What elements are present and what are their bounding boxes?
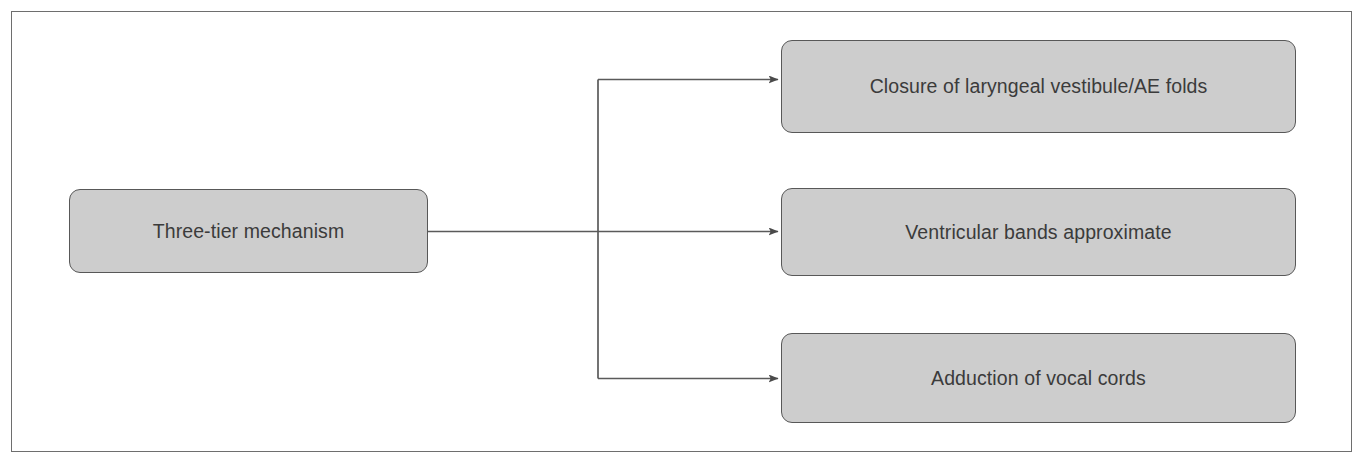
node-source-label: Three-tier mechanism bbox=[139, 219, 359, 243]
node-source-three-tier-mechanism[interactable]: Three-tier mechanism bbox=[69, 189, 428, 273]
node-target-0-label: Closure of laryngeal vestibule/AE folds bbox=[856, 74, 1222, 98]
node-target-1-label: Ventricular bands approximate bbox=[891, 220, 1185, 244]
node-target-2-label: Adduction of vocal cords bbox=[917, 366, 1160, 390]
node-target-ventricular-bands-approximate[interactable]: Ventricular bands approximate bbox=[781, 188, 1296, 276]
figure-canvas: Three-tier mechanism Closure of laryngea… bbox=[0, 0, 1363, 464]
node-target-closure-of-laryngeal-vestibule[interactable]: Closure of laryngeal vestibule/AE folds bbox=[781, 40, 1296, 133]
node-target-adduction-of-vocal-cords[interactable]: Adduction of vocal cords bbox=[781, 333, 1296, 423]
